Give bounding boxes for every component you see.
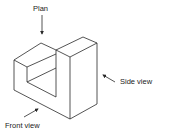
low-block-top-face xyxy=(14,43,56,60)
plan-label: Plan xyxy=(33,4,48,13)
side-view-label: Side view xyxy=(120,77,153,86)
bottom-edge xyxy=(14,90,70,119)
low-block-edge xyxy=(14,60,27,67)
low-block-inner-edge xyxy=(27,54,56,67)
cutout-edge-floor xyxy=(27,82,56,97)
cutout-edge-back xyxy=(27,68,56,82)
solid-object xyxy=(14,37,97,119)
front-view-label: Front view xyxy=(5,121,40,130)
tall-block-side-face xyxy=(70,43,97,119)
front-view-arrow-icon xyxy=(24,109,38,117)
side-view-arrow-icon xyxy=(103,75,115,82)
isometric-diagram: Plan Side view Front view xyxy=(0,0,172,131)
tall-block-top-face xyxy=(56,37,97,57)
